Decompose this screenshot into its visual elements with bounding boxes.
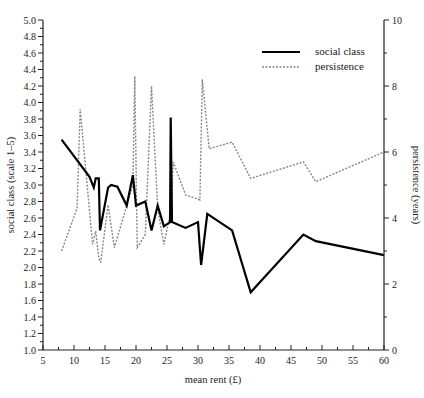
y-tick-label: 1.6 xyxy=(24,295,37,306)
legend-label-social-class: social class xyxy=(315,45,365,57)
series-line-persistence xyxy=(62,76,384,263)
series-line-social-class xyxy=(62,117,384,292)
y-tick-label: 4.6 xyxy=(24,48,37,59)
legend-label-persistence: persistence xyxy=(315,60,364,72)
y2-tick-label: 4 xyxy=(392,213,397,224)
y-left-ticks: 1.01.21.41.61.82.02.22.42.62.83.03.23.43… xyxy=(24,15,44,356)
y-tick-label: 1.8 xyxy=(24,279,37,290)
legend: social class persistence xyxy=(262,45,365,72)
x-tick-label: 10 xyxy=(69,355,79,366)
x-tick-label: 45 xyxy=(286,355,296,366)
y-tick-label: 3.8 xyxy=(24,114,37,125)
x-tick-label: 5 xyxy=(41,355,46,366)
y-tick-label: 2.0 xyxy=(24,262,37,273)
x-tick-label: 40 xyxy=(255,355,265,366)
plot-area xyxy=(62,76,384,292)
x-tick-label: 60 xyxy=(379,355,389,366)
y2-tick-label: 0 xyxy=(392,345,397,356)
y-tick-label: 5.0 xyxy=(24,15,37,26)
y-tick-label: 3.2 xyxy=(24,163,37,174)
x-tick-label: 25 xyxy=(162,355,172,366)
y2-tick-label: 6 xyxy=(392,147,397,158)
y-tick-label: 2.4 xyxy=(24,229,37,240)
y-tick-label: 1.4 xyxy=(24,312,37,323)
y-tick-label: 4.2 xyxy=(24,81,37,92)
x-tick-label: 35 xyxy=(224,355,234,366)
y-tick-label: 1.2 xyxy=(24,328,37,339)
x-tick-label: 55 xyxy=(348,355,358,366)
x-tick-label: 50 xyxy=(317,355,327,366)
y-tick-label: 1.0 xyxy=(24,345,37,356)
x-tick-label: 15 xyxy=(100,355,110,366)
y-tick-label: 2.6 xyxy=(24,213,37,224)
y-tick-label: 4.4 xyxy=(24,64,37,75)
y-tick-label: 2.2 xyxy=(24,246,37,257)
y-tick-label: 2.8 xyxy=(24,196,37,207)
line-chart: 51015202530354045505560 1.01.21.41.61.82… xyxy=(0,0,424,398)
y-right-ticks: 0246810 xyxy=(384,15,402,356)
x-tick-label: 30 xyxy=(193,355,203,366)
y2-tick-label: 8 xyxy=(392,81,397,92)
x-axis-title: mean rent (£) xyxy=(185,374,242,386)
y-tick-label: 3.0 xyxy=(24,180,37,191)
y-left-axis-title: social class (scale 1–5) xyxy=(5,136,17,233)
x-ticks: 51015202530354045505560 xyxy=(41,345,390,366)
y2-tick-label: 2 xyxy=(392,279,397,290)
y-tick-label: 3.4 xyxy=(24,147,37,158)
y-right-axis-title: persistence (years) xyxy=(410,146,422,225)
y-tick-label: 4.0 xyxy=(24,97,37,108)
y-tick-label: 3.6 xyxy=(24,130,37,141)
x-tick-label: 20 xyxy=(131,355,141,366)
y-tick-label: 4.8 xyxy=(24,31,37,42)
y2-tick-label: 10 xyxy=(392,15,402,26)
